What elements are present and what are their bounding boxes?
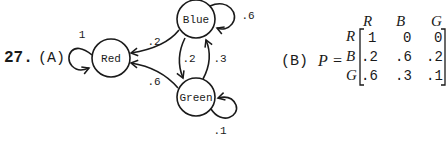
node-green: Green	[177, 78, 215, 116]
part-b-label: (B)	[281, 53, 308, 70]
matrix-cell: .2	[426, 49, 443, 65]
node-blue-label: Blue	[183, 14, 209, 26]
matrix-row-header: B	[346, 48, 355, 65]
matrix-cell: 0	[434, 30, 442, 46]
matrix-cell: 1	[368, 30, 376, 46]
matrix-cell: 0	[403, 30, 411, 46]
matrix-col-header: B	[396, 13, 405, 30]
node-red: Red	[92, 39, 130, 77]
edge-red-self-label: 1	[79, 29, 86, 41]
edge-green-to-blue	[203, 40, 209, 79]
edge-green-red-label: .6	[147, 76, 160, 88]
matrix-col-header: G	[431, 13, 442, 30]
matrix-cell: .3	[395, 68, 412, 84]
edge-red-self-loop	[69, 48, 92, 70]
matrix-col-header: R	[363, 13, 372, 30]
matrix-cell: .1	[426, 68, 443, 84]
node-red-label: Red	[101, 53, 121, 65]
node-blue: Blue	[177, 0, 215, 38]
equals-sign: =	[333, 52, 342, 70]
edge-green-self-label: .1	[213, 125, 227, 137]
matrix-row-header: R	[346, 28, 355, 45]
edge-blue-red-label: .2	[147, 36, 160, 48]
node-green-label: Green	[179, 92, 212, 104]
edge-blue-self-label: .6	[241, 10, 254, 22]
matrix-symbol: P	[318, 52, 328, 70]
matrix-cell: .2	[361, 49, 378, 65]
edge-blue-green-label: .2	[182, 53, 195, 65]
matrix-row-header: G	[346, 67, 357, 84]
edge-green-blue-label: .3	[213, 53, 226, 65]
matrix-cell: .6	[395, 49, 412, 65]
markov-chain-diagram: Red Blue Green 1 .6 .1 .2 .6 .2 .3	[0, 0, 448, 142]
matrix-cell: .6	[361, 68, 378, 84]
